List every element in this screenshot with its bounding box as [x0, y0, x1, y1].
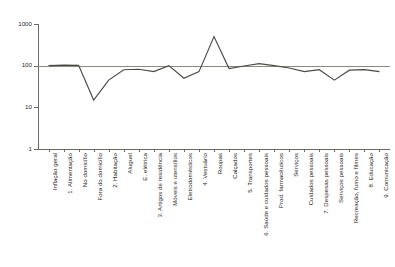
data-line-plot — [0, 0, 395, 267]
chart-container: 1000100101 Inflação geral1. AlimentaçãoN… — [0, 0, 395, 267]
series-line-indice — [49, 37, 380, 100]
